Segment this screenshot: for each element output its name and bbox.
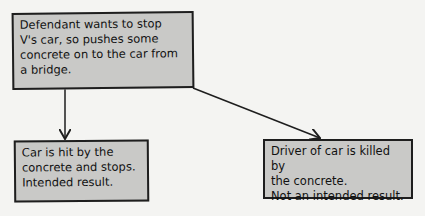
intended-result-box: Car is hit by the concrete and stops. In…	[14, 139, 150, 202]
arrow-to-unintended-result	[193, 88, 320, 138]
cause-box: Defendant wants to stop V's car, so push…	[12, 11, 195, 90]
unintended-result-box: Driver of car is killed by the concrete.…	[263, 139, 413, 199]
